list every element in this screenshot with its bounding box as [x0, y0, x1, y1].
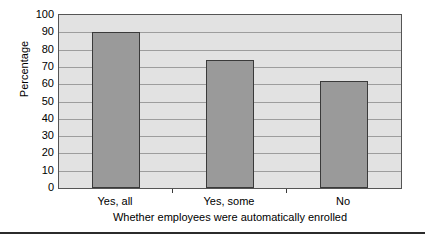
x-axis-tick-mark	[286, 189, 287, 193]
y-axis-tick-label: 80	[28, 43, 54, 55]
y-axis-tick-label: 100	[28, 8, 54, 20]
bar	[92, 32, 140, 188]
y-axis-tick-label: 90	[28, 25, 54, 37]
y-axis-tick-label: 0	[28, 181, 54, 193]
y-axis-tick-label: 50	[28, 95, 54, 107]
y-axis-tick-labels: 0102030405060708090100	[28, 8, 54, 194]
y-axis-tick-label: 70	[28, 60, 54, 72]
x-axis-category-label: Yes, some	[172, 194, 286, 208]
x-axis-title: Whether employees were automatically enr…	[58, 210, 402, 224]
bar	[320, 81, 368, 188]
x-axis-tick-mark	[172, 189, 173, 193]
y-axis-tick-label: 40	[28, 112, 54, 124]
x-axis-category-label: Yes, all	[58, 194, 172, 208]
y-axis-tick-label: 20	[28, 146, 54, 158]
x-axis-category-labels: Yes, allYes, someNo	[58, 194, 402, 210]
bar	[206, 60, 254, 188]
y-axis-tick-label: 10	[28, 164, 54, 176]
y-axis-tick-label: 30	[28, 129, 54, 141]
bar-chart-figure: Percentage 0102030405060708090100 Yes, a…	[0, 0, 425, 242]
y-axis-tick-label: 60	[28, 77, 54, 89]
plot-area	[58, 14, 402, 189]
bottom-divider	[0, 232, 425, 234]
x-axis-category-label: No	[286, 194, 400, 208]
